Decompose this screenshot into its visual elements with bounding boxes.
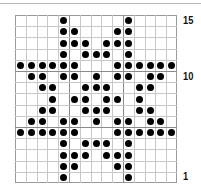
stitch-dot xyxy=(147,129,154,136)
stitch-dot xyxy=(136,84,143,91)
grid-column-line xyxy=(101,15,102,183)
stitch-dot xyxy=(114,118,121,125)
stitch-dot xyxy=(71,62,78,69)
stitch-dot xyxy=(82,51,89,58)
stitch-dot xyxy=(125,17,132,24)
grid-column-line xyxy=(26,15,27,183)
stitch-dot xyxy=(60,118,67,125)
grid-row-line xyxy=(15,138,177,139)
stitch-dot xyxy=(114,96,121,103)
row-label-15: 15 xyxy=(183,15,193,26)
row-label-10: 10 xyxy=(183,71,193,82)
grid-column-line xyxy=(58,15,59,183)
stitch-dot xyxy=(125,73,132,80)
row-label-1: 1 xyxy=(183,171,188,182)
stitch-dot xyxy=(82,140,89,147)
grid-column-line xyxy=(134,15,135,183)
grid-row-line xyxy=(15,82,177,83)
stitch-dot xyxy=(114,163,121,170)
stitch-dot xyxy=(39,84,46,91)
grid-row-line xyxy=(15,93,177,94)
grid-column-line xyxy=(166,15,167,183)
stitch-dot xyxy=(71,152,78,159)
stitch-dot xyxy=(125,152,132,159)
grid-column-line xyxy=(155,15,156,183)
stitch-dot xyxy=(147,118,154,125)
grid-row-line xyxy=(15,149,177,150)
stitch-dot xyxy=(103,96,110,103)
stitch-dot xyxy=(147,107,154,114)
stitch-dot xyxy=(125,174,132,181)
stitch-dot xyxy=(71,96,78,103)
stitch-dot xyxy=(136,96,143,103)
stitch-dot xyxy=(93,73,100,80)
grid-column-line xyxy=(47,15,48,183)
stitch-dot xyxy=(82,107,89,114)
grid-row-line xyxy=(15,116,177,117)
stitch-dot xyxy=(60,152,67,159)
stitch-dot xyxy=(114,152,121,159)
stitch-dot xyxy=(39,129,46,136)
stitch-dot xyxy=(71,118,78,125)
stitch-dot xyxy=(147,62,154,69)
stitch-dot xyxy=(125,129,132,136)
stitch-dot xyxy=(71,163,78,170)
grid-column-line xyxy=(91,15,92,183)
grid-column-line xyxy=(145,15,146,183)
stitch-dot xyxy=(60,51,67,58)
stitch-dot xyxy=(82,152,89,159)
stitch-dot xyxy=(93,140,100,147)
stitch-dot xyxy=(71,40,78,47)
grid-column-line xyxy=(123,15,124,183)
stitch-chart xyxy=(15,15,177,183)
grid-column-line xyxy=(37,15,38,183)
stitch-dot xyxy=(136,62,143,69)
stitch-dot xyxy=(114,40,121,47)
grid-row-line xyxy=(15,60,177,61)
stitch-dot xyxy=(28,62,35,69)
stitch-dot xyxy=(125,62,132,69)
stitch-dot xyxy=(147,73,154,80)
stitch-dot xyxy=(71,129,78,136)
grid-row-line xyxy=(15,127,177,128)
stitch-dot xyxy=(93,118,100,125)
stitch-dot xyxy=(93,51,100,58)
stitch-dot xyxy=(103,152,110,159)
stitch-dot xyxy=(60,174,67,181)
grid-column-line xyxy=(69,15,70,183)
stitch-dot xyxy=(17,129,24,136)
stitch-dot xyxy=(60,163,67,170)
stitch-dot xyxy=(71,73,78,80)
stitch-dot xyxy=(39,107,46,114)
stitch-dot xyxy=(168,62,175,69)
stitch-dot xyxy=(82,96,89,103)
stitch-dot xyxy=(49,107,56,114)
stitch-dot xyxy=(136,107,143,114)
top-divider xyxy=(0,3,201,4)
stitch-dot xyxy=(28,118,35,125)
stitch-dot xyxy=(103,40,110,47)
stitch-dot xyxy=(125,163,132,170)
stitch-dot xyxy=(125,118,132,125)
stitch-dot xyxy=(82,40,89,47)
stitch-dot xyxy=(125,40,132,47)
stitch-dot xyxy=(114,62,121,69)
stitch-dot xyxy=(49,96,56,103)
stitch-dot xyxy=(136,129,143,136)
stitch-dot xyxy=(125,51,132,58)
stitch-dot xyxy=(82,84,89,91)
stitch-dot xyxy=(28,73,35,80)
stitch-dot xyxy=(39,118,46,125)
grid-column-line xyxy=(80,15,81,183)
stitch-dot xyxy=(93,107,100,114)
grid-row-line xyxy=(15,26,177,27)
stitch-dot xyxy=(103,51,110,58)
chart-grid xyxy=(15,15,177,183)
grid-row-line xyxy=(15,172,177,173)
grid-row-line xyxy=(15,49,177,50)
grid-row-line xyxy=(15,161,177,162)
stitch-dot xyxy=(60,40,67,47)
stitch-dot xyxy=(39,62,46,69)
stitch-dot xyxy=(60,62,67,69)
stitch-dot xyxy=(28,129,35,136)
